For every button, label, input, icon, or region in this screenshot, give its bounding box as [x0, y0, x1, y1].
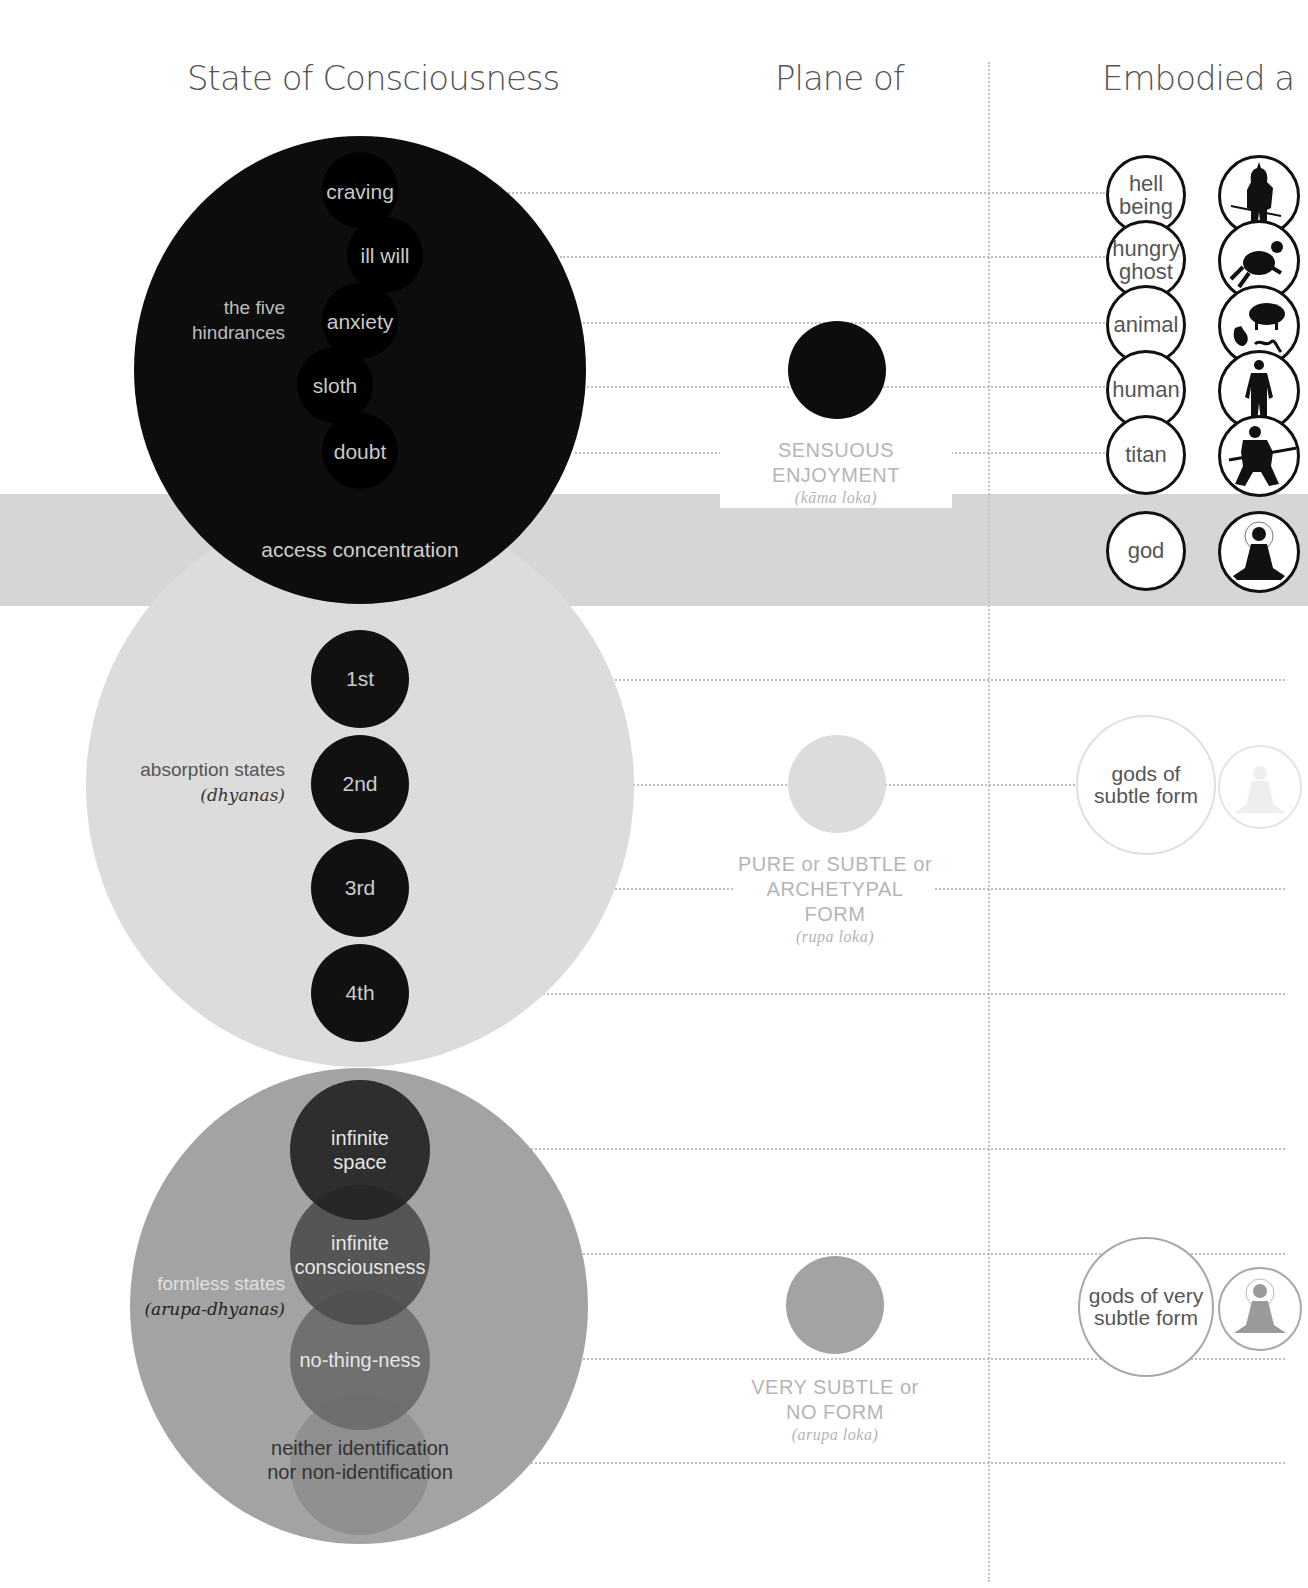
column-title-plane: Plane of [775, 58, 904, 98]
plane-formless-circle [786, 1256, 884, 1354]
realm-gods-very-subtle-form: gods of verysubtle form [1078, 1237, 1214, 1377]
access-concentration-label: access concentration [210, 530, 510, 570]
plane-sensuous-circle [788, 321, 886, 419]
realm-titan: titan [1106, 415, 1186, 495]
hindrance-doubt: doubt [310, 432, 410, 472]
formless-group-label: formless states (arupa-dhyanas) [120, 1272, 285, 1321]
dhyana-1-label: 1st [311, 630, 409, 728]
hindrances-group-label: the five hindrances [160, 296, 285, 345]
hindrance-sloth: sloth [285, 366, 385, 406]
plane-label-subtle: PURE or SUBTLE or ARCHETYPAL FORM (arupa… [735, 852, 935, 947]
hindrance-ill-will: ill will [335, 236, 435, 276]
plane-subtle-circle [788, 735, 886, 833]
dhyana-3-label: 3rd [311, 839, 409, 937]
meditating-buddha-icon [1218, 511, 1300, 593]
dhyana-4-label: 4th [311, 944, 409, 1042]
column-divider [988, 62, 990, 1582]
dhyana-2-label: 2nd [311, 735, 409, 833]
faded-buddha-icon [1218, 745, 1302, 829]
warrior-with-spear-icon [1218, 415, 1300, 497]
absorption-group-label: absorption states (dhyanas) [110, 758, 285, 807]
column-title-state: State of Consciousness [187, 58, 559, 98]
column-title-embodied: Embodied a [1102, 58, 1294, 98]
connector-line [440, 1462, 1285, 1464]
formless-item-4: neither identificationnor non-identifica… [230, 1400, 490, 1520]
hindrance-craving: craving [310, 172, 410, 212]
plane-label-formless: VERY SUBTLE or NO FORM (arupa loka) [745, 1375, 925, 1445]
connector-line [560, 256, 1105, 258]
plane-label-sensuous: SENSUOUS ENJOYMENT (kāma loka) [720, 438, 952, 508]
connector-line [505, 192, 1105, 194]
hindrance-anxiety: anxiety [310, 302, 410, 342]
connector-line [430, 1148, 1285, 1150]
realm-gods-subtle-form: gods ofsubtle form [1076, 715, 1216, 855]
realm-god: god [1106, 511, 1186, 591]
grey-buddha-icon [1218, 1267, 1302, 1351]
